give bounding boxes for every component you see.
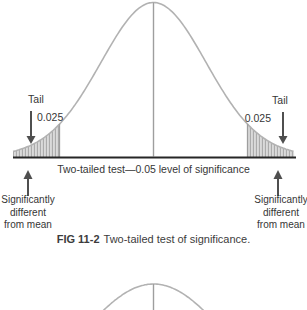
left-tail-down-arrow [27, 111, 36, 144]
axis-caption: Two-tailed test—0.05 level of significan… [0, 163, 307, 175]
left-tail-label: Tail [22, 93, 50, 105]
figure-caption: FIG 11-2Two-tailed test of significance. [0, 233, 307, 246]
figure-caption-text: Two-tailed test of significance. [104, 233, 251, 245]
figure-caption-number: FIG 11-2 [57, 233, 100, 245]
left-significance-note: Significantly different from mean [0, 194, 61, 232]
right-significance-note-line: Significantly [248, 194, 307, 207]
left-significance-note-line: different [0, 207, 61, 220]
right-significance-note: Significantly different from mean [248, 194, 307, 232]
left-significance-note-line: Significantly [0, 194, 61, 207]
left-significance-note-line: from mean [0, 219, 61, 232]
right-tail-shaded-region [248, 124, 295, 158]
left-tail-area-value: 0.025 [37, 111, 71, 123]
right-significance-note-line: different [248, 207, 307, 220]
right-tail-down-arrow [279, 112, 288, 144]
two-tailed-test-figure: Tail 0.025 Tail 0.025 Two-tailed test—0.… [0, 0, 307, 310]
right-tail-area-value: 0.025 [237, 112, 271, 124]
right-significance-note-line: from mean [248, 219, 307, 232]
left-tail-shaded-region [13, 124, 60, 158]
diagram-canvas [0, 0, 307, 310]
right-tail-label: Tail [266, 94, 294, 106]
